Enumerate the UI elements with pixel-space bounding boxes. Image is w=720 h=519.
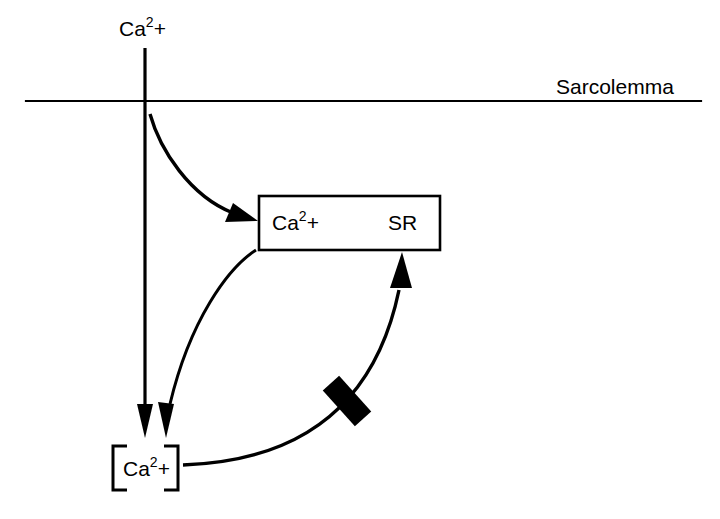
extracellular-calcium-superscript: 2 — [146, 14, 154, 30]
sarcolemma-label: Sarcolemma — [556, 75, 674, 98]
cytosolic-feedback-arrowhead — [390, 252, 412, 288]
cytosolic-calcium-base: Ca — [123, 457, 150, 480]
extracellular-calcium-label: Ca2+ — [119, 14, 166, 40]
sr-calcium-label: Ca2+ — [272, 208, 319, 234]
cytosolic-calcium-charge: + — [158, 457, 170, 480]
sr-release-arrowhead — [158, 402, 174, 438]
extracellular-calcium-base: Ca — [119, 17, 146, 40]
sr-calcium-superscript: 2 — [299, 208, 307, 224]
cytosolic-calcium-superscript: 2 — [150, 454, 158, 470]
calcium-handling-diagram: Ca2+ Sarcolemma Ca2+ SR Ca2+ — [0, 0, 720, 519]
extracellular-calcium-charge: + — [154, 17, 166, 40]
diagram-canvas: Ca2+ Sarcolemma Ca2+ SR Ca2+ — [0, 0, 720, 519]
sr-calcium-charge: + — [307, 211, 319, 234]
sr-uptake-curved-arrow — [150, 114, 233, 213]
cytosolic-feedback-arrow — [183, 290, 399, 465]
sr-calcium-base: Ca — [272, 211, 299, 234]
sr-release-curved-arrow — [170, 250, 256, 404]
cytosolic-calcium-label: Ca2+ — [123, 454, 170, 480]
sr-uptake-arrowhead — [225, 203, 258, 222]
sr-compartment-label: SR — [388, 211, 417, 234]
calcium-influx-arrowhead — [137, 404, 153, 438]
inhibition-bar — [323, 376, 371, 426]
